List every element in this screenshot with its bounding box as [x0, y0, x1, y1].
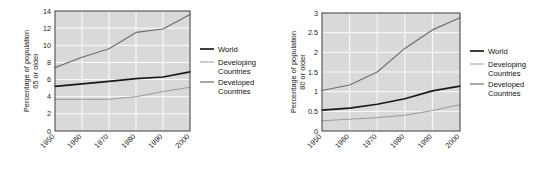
- legend-label: Developed: [488, 80, 524, 89]
- x-axis-tick-labels: 195019601970198019902000: [38, 132, 191, 150]
- chart-panel-65-or-older: 02468101214195019601970198019902000Perce…: [0, 0, 270, 171]
- y-tick-label: 14: [43, 7, 51, 16]
- legend-label: World: [488, 47, 508, 56]
- x-tick-label: 1980: [388, 132, 406, 150]
- legend-label: Countries: [218, 87, 251, 96]
- y-tick-label: 3: [314, 9, 318, 18]
- y-tick-label: 1: [314, 87, 318, 96]
- two-panel-line-chart-figure: 02468101214195019601970198019902000Perce…: [0, 0, 540, 171]
- legend-label: Developed: [218, 78, 254, 87]
- legend: WorldDevelopingCountriesDevelopedCountri…: [470, 47, 526, 98]
- y-tick-label: 8: [47, 58, 51, 67]
- y-tick-label: 12: [43, 24, 51, 33]
- legend-label: Countries: [218, 67, 251, 76]
- legend: WorldDevelopingCountriesDevelopedCountri…: [200, 45, 256, 96]
- legend-label: Developing: [488, 60, 526, 69]
- x-tick-label: 1950: [305, 132, 323, 150]
- y-axis-title-line2: 80 or older: [298, 54, 307, 90]
- y-axis-title: Percentage of population65 or older: [22, 30, 40, 112]
- y-axis-tick-labels: 00.511.522.53: [308, 9, 318, 136]
- chart-svg-right: 00.511.522.53195019601970198019902000Per…: [270, 0, 540, 171]
- x-tick-label: 1980: [119, 132, 137, 150]
- y-axis-title-line2: 65 or older: [31, 53, 40, 89]
- x-axis-tick-labels: 195019601970198019902000: [305, 132, 461, 150]
- x-tick-label: 2000: [173, 132, 191, 150]
- y-axis-title-line1: Percentage of population: [289, 31, 298, 113]
- x-tick-label: 1970: [361, 132, 379, 150]
- y-axis-title: Percentage of population80 or older: [289, 31, 307, 113]
- legend-label: Countries: [488, 89, 521, 98]
- x-tick-label: 2000: [443, 132, 461, 150]
- x-tick-label: 1960: [333, 132, 351, 150]
- x-tick-label: 1990: [416, 132, 434, 150]
- y-tick-label: 1.5: [308, 68, 318, 77]
- x-tick-label: 1950: [38, 132, 56, 150]
- y-axis-title-line1: Percentage of population: [22, 30, 31, 112]
- y-tick-label: 6: [47, 75, 51, 84]
- legend-label: Developing: [218, 58, 256, 67]
- plot-background: [55, 11, 190, 131]
- x-tick-label: 1990: [146, 132, 164, 150]
- y-tick-label: 0.5: [308, 107, 318, 116]
- x-tick-label: 1970: [92, 132, 110, 150]
- y-tick-label: 2.5: [308, 28, 318, 37]
- legend-label: World: [218, 45, 238, 54]
- legend-label: Countries: [488, 69, 521, 78]
- y-tick-label: 4: [47, 92, 51, 101]
- y-tick-label: 10: [43, 41, 51, 50]
- y-tick-label: 2: [314, 48, 318, 57]
- chart-panel-80-or-older: 00.511.522.53195019601970198019902000Per…: [270, 0, 540, 171]
- chart-svg-left: 02468101214195019601970198019902000Perce…: [0, 0, 270, 171]
- x-tick-label: 1960: [65, 132, 83, 150]
- y-tick-label: 2: [47, 109, 51, 118]
- y-axis-tick-labels: 02468101214: [43, 7, 51, 136]
